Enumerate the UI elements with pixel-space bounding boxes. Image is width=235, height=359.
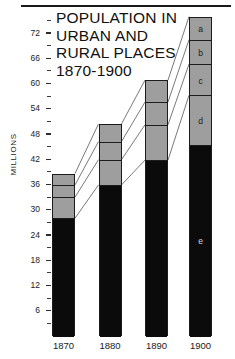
connector-line xyxy=(122,160,146,185)
bar-segment-e-1870[interactable] xyxy=(53,219,74,337)
segment-label-e: e xyxy=(190,236,211,246)
y-tick-major xyxy=(46,159,51,160)
y-tick-major xyxy=(46,310,51,311)
connector-line xyxy=(75,142,99,185)
y-tick-minor xyxy=(47,272,51,273)
y-tick-label: 30 xyxy=(18,205,40,213)
x-tick-label-1900: 1900 xyxy=(178,340,224,351)
segment-label-c: c xyxy=(190,76,211,86)
y-tick-minor xyxy=(47,323,51,324)
y-tick-minor xyxy=(47,45,51,46)
title-line-1: POPULATION IN xyxy=(56,9,186,27)
y-tick-minor xyxy=(47,70,51,71)
bar-segment-d-1900[interactable]: d xyxy=(190,96,211,146)
bar-segment-b-1880[interactable] xyxy=(100,125,121,143)
y-tick-minor xyxy=(47,121,51,122)
y-tick-label: 60 xyxy=(18,79,40,87)
y-tick-label: 54 xyxy=(18,104,40,112)
y-tick-minor xyxy=(47,197,51,198)
connector-line xyxy=(122,80,146,124)
connector-line xyxy=(75,124,99,174)
x-tick-label-1890: 1890 xyxy=(134,340,180,351)
y-tick-major xyxy=(46,133,51,134)
y-tick-minor xyxy=(47,96,51,97)
segment-label-a: a xyxy=(190,24,211,34)
bar-1890[interactable] xyxy=(145,80,168,336)
bar-segment-e-1900[interactable]: e xyxy=(190,146,211,337)
title-line-4: 1870-1900 xyxy=(56,62,186,80)
y-tick-minor xyxy=(47,146,51,147)
y-tick-label: 72 xyxy=(18,29,40,37)
y-tick-minor xyxy=(47,20,51,21)
y-tick-major xyxy=(46,32,51,33)
bar-segment-d-1880[interactable] xyxy=(100,161,121,186)
y-tick-major xyxy=(46,285,51,286)
bar-segment-c-1890[interactable] xyxy=(146,103,167,126)
connector-line xyxy=(122,102,146,142)
y-tick-label: 24 xyxy=(18,231,40,239)
y-tick-minor xyxy=(47,298,51,299)
segment-label-b: b xyxy=(190,48,211,58)
y-tick-minor xyxy=(47,222,51,223)
y-tick-major xyxy=(46,260,51,261)
title-line-2: URBAN AND xyxy=(56,27,186,45)
bar-segment-b-1890[interactable] xyxy=(146,81,167,103)
bar-segment-b-1900[interactable]: b xyxy=(190,41,211,65)
chart-title: POPULATION IN URBAN AND RURAL PLACES 187… xyxy=(56,9,186,79)
connector-line xyxy=(122,125,146,160)
bar-1870[interactable] xyxy=(52,174,75,336)
title-line-3: RURAL PLACES xyxy=(56,44,186,62)
y-tick-label: 42 xyxy=(18,155,40,163)
bar-segment-a-1900[interactable]: a xyxy=(190,18,211,41)
y-tick-major xyxy=(46,83,51,84)
connector-line xyxy=(75,160,99,197)
y-tick-major xyxy=(46,209,51,210)
y-tick-major xyxy=(46,58,51,59)
bar-segment-c-1880[interactable] xyxy=(100,143,121,161)
bar-segment-c-1870[interactable] xyxy=(53,186,74,198)
y-tick-major xyxy=(46,108,51,109)
bar-segment-e-1890[interactable] xyxy=(146,161,167,337)
bar-segment-d-1870[interactable] xyxy=(53,198,74,219)
y-axis-ticks: 61218243036424854606672 xyxy=(0,0,52,359)
bar-segment-d-1890[interactable] xyxy=(146,126,167,161)
y-tick-major xyxy=(46,234,51,235)
bar-1880[interactable] xyxy=(99,124,122,336)
y-tick-label: 18 xyxy=(18,256,40,264)
y-tick-label: 48 xyxy=(18,130,40,138)
x-tick-label-1870: 1870 xyxy=(41,340,87,351)
top-rule-divider xyxy=(21,5,231,7)
y-tick-minor xyxy=(47,171,51,172)
segment-label-d: d xyxy=(190,116,211,126)
y-tick-minor xyxy=(47,247,51,248)
y-tick-major xyxy=(46,184,51,185)
bar-1900[interactable]: edcba xyxy=(189,17,212,336)
y-tick-label: 12 xyxy=(18,281,40,289)
x-tick-label-1880: 1880 xyxy=(87,340,133,351)
bar-segment-c-1900[interactable]: c xyxy=(190,65,211,96)
chart-container: MILLIONS POPULATION IN URBAN AND RURAL P… xyxy=(0,0,235,359)
bar-segment-b-1870[interactable] xyxy=(53,175,74,186)
bar-segment-e-1880[interactable] xyxy=(100,186,121,337)
y-tick-label: 6 xyxy=(18,306,40,314)
connector-line xyxy=(168,95,189,160)
connector-line xyxy=(75,185,99,218)
y-tick-label: 36 xyxy=(18,180,40,188)
y-tick-label: 66 xyxy=(18,54,40,62)
